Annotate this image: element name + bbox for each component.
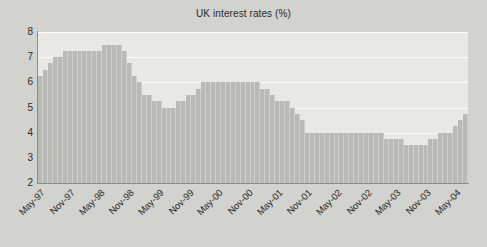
x-tick-label: May-98 — [76, 187, 106, 217]
x-tick-label: Nov-99 — [166, 187, 195, 216]
x-tick-label: Nov-01 — [285, 187, 314, 216]
x-tick-label: Nov-97 — [47, 187, 76, 216]
x-tick-label: May-03 — [373, 187, 403, 217]
x-tick-label: May-02 — [314, 187, 344, 217]
x-axis-tick-labels: May-97Nov-97May-98Nov-98May-99Nov-99May-… — [0, 0, 487, 247]
chart-container: UK interest rates (%) 2345678 May-97Nov-… — [0, 0, 487, 247]
x-tick-label: May-00 — [195, 187, 225, 217]
x-tick-label: Nov-98 — [107, 187, 136, 216]
x-tick-label: Nov-00 — [225, 187, 254, 216]
x-tick-label: May-01 — [254, 187, 284, 217]
x-tick-label: Nov-03 — [403, 187, 432, 216]
x-tick-label: May-99 — [136, 187, 166, 217]
x-tick-label: May-97 — [17, 187, 47, 217]
x-tick-label: May-04 — [432, 187, 462, 217]
bottom-margin-strip — [0, 236, 487, 247]
x-tick-label: Nov-02 — [344, 187, 373, 216]
